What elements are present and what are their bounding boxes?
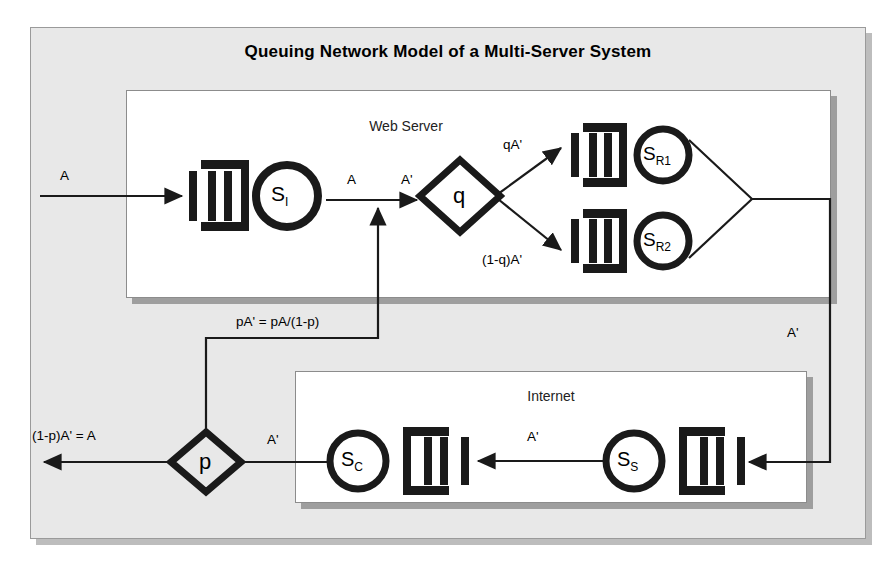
diamond-label-p: p <box>199 449 211 475</box>
arrow-q-to-r2 <box>498 199 561 250</box>
connector-layer <box>0 0 894 570</box>
arrow-q-to-r1 <box>498 148 561 194</box>
queue-icon-server-c <box>403 427 469 495</box>
flow-label-to-r1: qA' <box>503 137 522 152</box>
queue-icon-server-r2 <box>571 209 627 273</box>
line-r2-merge <box>689 199 752 258</box>
diamond-label-q: q <box>453 183 465 209</box>
server-label-c: SC <box>341 448 363 474</box>
path-servers-return <box>689 140 830 462</box>
flow-label-feedback: pA' = pA/(1-p) <box>236 314 319 329</box>
flow-label-to-r2: (1-q)A' <box>482 252 522 267</box>
queue-icon-server-s <box>679 427 745 495</box>
server-label-r2: SR2 <box>643 229 671 254</box>
flow-label-internet-mid: A' <box>527 429 539 444</box>
queue-icon-server-i <box>189 160 249 231</box>
server-label-i: SI <box>271 182 288 209</box>
server-label-r1: SR1 <box>643 143 671 168</box>
server-label-s: SS <box>617 448 638 474</box>
flow-label-web-in-a: A <box>347 172 356 187</box>
flow-label-merge-return: A' <box>787 325 799 340</box>
queue-icon-server-r1 <box>571 123 627 187</box>
flow-label-web-in-aprime: A' <box>401 172 413 187</box>
flow-label-to-p: A' <box>267 432 279 447</box>
flow-label-arrival: A <box>60 168 69 183</box>
flow-label-departure: (1-p)A' = A <box>32 428 96 443</box>
diagram-canvas: Queuing Network Model of a Multi-Server … <box>0 0 894 570</box>
